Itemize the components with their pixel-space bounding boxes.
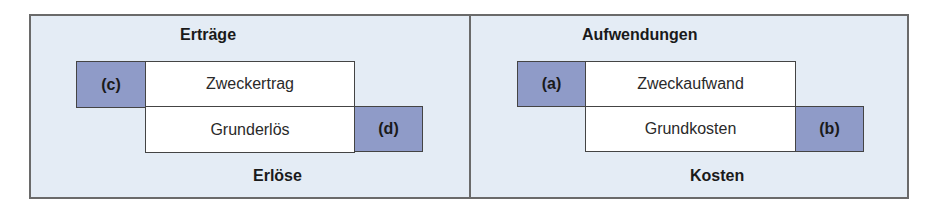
expense-bottom-label: Kosten <box>690 167 744 185</box>
expense-top-label: Aufwendungen <box>582 26 698 44</box>
revenue-bottom-label: Erlöse <box>253 167 302 185</box>
grundkosten-box: Grundkosten <box>585 106 796 152</box>
marker-d: (d) <box>354 106 423 152</box>
zweckertrag-box: Zweckertrag <box>145 61 355 107</box>
marker-b: (b) <box>795 106 864 152</box>
revenue-top-label: Erträge <box>180 26 236 44</box>
zweckaufwand-box: Zweckaufwand <box>585 61 796 107</box>
panel-divider <box>469 14 471 199</box>
marker-c: (c) <box>76 61 146 108</box>
grunderloes-box: Grunderlös <box>145 106 355 153</box>
marker-a: (a) <box>517 61 586 107</box>
